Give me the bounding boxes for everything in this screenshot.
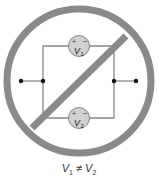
terminal-right xyxy=(134,79,138,83)
voltage-source-v1: + − V 1 xyxy=(69,36,90,58)
voltage-source-v2: + − V 2 xyxy=(69,108,90,130)
caption-v1-not-equal-v2: V1 ≠ V2 xyxy=(0,162,158,176)
node-right xyxy=(112,79,116,83)
svg-text:−: − xyxy=(83,37,88,46)
node-left xyxy=(41,79,45,83)
svg-text:+: + xyxy=(72,110,76,117)
circuit-diagram: + − V 1 + − V 2 xyxy=(0,0,158,179)
svg-text:−: − xyxy=(83,109,88,118)
terminal-left xyxy=(19,79,23,83)
svg-text:+: + xyxy=(72,38,76,45)
